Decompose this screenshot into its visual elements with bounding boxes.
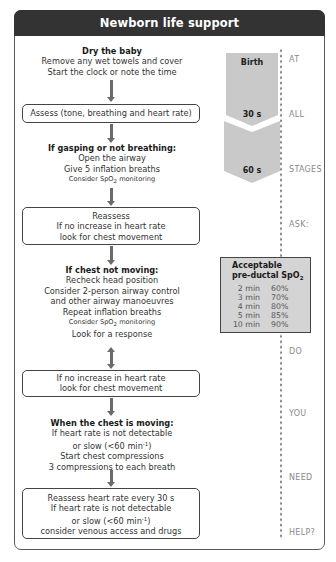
timeline-label-30s: 30 s <box>224 110 280 119</box>
box-line: Reassess <box>23 211 199 221</box>
down-arrow-icon <box>108 470 115 487</box>
reassess-box: Reassess If no increase in heart rate lo… <box>22 207 200 245</box>
step-line: Repeat inflation breaths <box>22 307 202 317</box>
side-label-need: NEED <box>289 473 312 482</box>
double-arrow-icon <box>108 347 115 369</box>
side-label-help: HELP? <box>289 528 315 537</box>
page-title: Newborn life support <box>14 10 325 36</box>
box-line: consider venous access and drugs <box>23 526 199 536</box>
step-small-line: Consider SpO2 monitoring <box>22 174 202 186</box>
box-line: look for chest movement <box>23 383 199 393</box>
final-reassess-box: Reassess heart rate every 30 s If heart … <box>22 488 200 539</box>
box-line: If heart rate is not detectable <box>23 503 199 513</box>
step-line: Recheck head position <box>22 275 202 285</box>
step-line: Look for a response <box>22 329 202 339</box>
side-label-do: DO <box>289 347 302 356</box>
step-heading: When the chest is moving: <box>22 418 202 428</box>
down-arrow-icon <box>108 124 115 144</box>
no-increase-box: If no increase in heart rate look for ch… <box>22 370 200 397</box>
box-line: If no increase in heart rate <box>23 373 199 383</box>
step-chest-not-moving: If chest not moving: Recheck head positi… <box>22 265 202 340</box>
step-line: Give 5 inflation breaths <box>22 164 202 174</box>
step-chest-moving: When the chest is moving: If heart rate … <box>22 418 202 472</box>
spo2-row: 2 min60% <box>221 284 312 293</box>
step-dry-baby: Dry the baby Remove any wet towels and c… <box>22 46 202 77</box>
spo2-title: Acceptable pre-ductal SpO2 <box>232 261 303 283</box>
spo2-row: 10 min90% <box>221 320 312 329</box>
step-line: Consider 2-person airway control <box>22 286 202 296</box>
down-arrow-icon <box>108 80 115 102</box>
side-label-you: YOU <box>289 409 307 418</box>
step-line: Open the airway <box>22 153 202 163</box>
step-line: If heart rate is not detectable <box>22 428 202 438</box>
timeline-arrow: Birth 30 s 60 s <box>224 53 280 185</box>
box-line: or slow (<60 min-1) <box>23 514 199 526</box>
step-line: or slow (<60 min-1) <box>22 439 202 451</box>
side-label-ask: ASK: <box>289 220 309 229</box>
down-arrow-icon <box>108 246 115 265</box>
side-label-all: ALL <box>289 110 304 119</box>
step-line: and other airway manoeuvres <box>22 296 202 306</box>
spo2-row: 4 min80% <box>221 302 312 311</box>
spo2-table: Acceptable pre-ductal SpO2 2 min60% 3 mi… <box>220 257 311 333</box>
step-line: Remove any wet towels and cover <box>22 56 202 66</box>
step-line: Start the clock or note the time <box>22 67 202 77</box>
side-label-at: AT <box>289 55 299 64</box>
step-heading: If gasping or not breathing: <box>22 143 202 153</box>
spo2-row: 5 min85% <box>221 311 312 320</box>
timeline-label-60s: 60 s <box>224 166 280 175</box>
box-line: If no increase in heart rate <box>23 221 199 231</box>
step-small-line: Consider SpO2 monitoring <box>22 317 202 329</box>
box-line: Reassess heart rate every 30 s <box>23 493 199 503</box>
step-gasping: If gasping or not breathing: Open the ai… <box>22 143 202 187</box>
assess-box: Assess (tone, breathing and heart rate) <box>22 104 200 123</box>
step-heading: If chest not moving: <box>22 265 202 275</box>
down-arrow-icon <box>108 398 115 416</box>
box-line: look for chest movement <box>23 232 199 242</box>
timeline-label-birth: Birth <box>224 58 280 67</box>
step-heading: Dry the baby <box>22 46 202 56</box>
side-label-stages: STAGES <box>289 165 322 174</box>
step-line: Start chest compressions <box>22 451 202 461</box>
spo2-row: 3 min70% <box>221 293 312 302</box>
down-arrow-icon <box>108 188 115 206</box>
